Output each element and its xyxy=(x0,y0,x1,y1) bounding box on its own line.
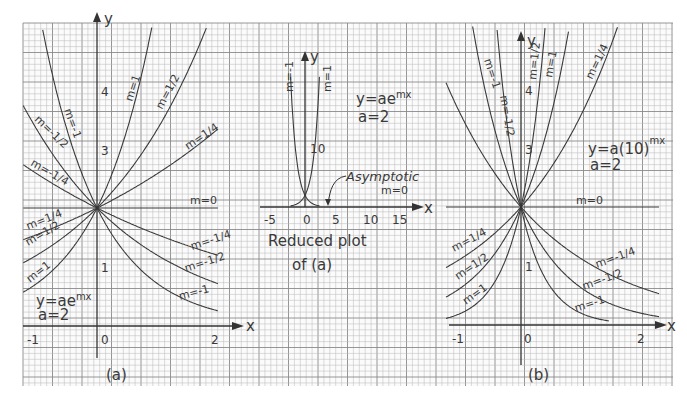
panel-b-label-m0: m=0 xyxy=(576,194,603,207)
panel-b-xtick-neg1: -1 xyxy=(452,332,464,346)
reduced-xtick-5: 5 xyxy=(332,213,340,227)
panel-a-ytick-4: 4 xyxy=(101,85,109,99)
reduced-xtick-10: 10 xyxy=(363,213,378,227)
reduced-x-label: x xyxy=(424,199,433,217)
panel-b-ytick-1: 1 xyxy=(525,260,533,274)
reduced-xtick-neg5: -5 xyxy=(264,213,276,227)
panel-b-xtick-0: 0 xyxy=(524,332,532,346)
reduced-caption-line2: of (a) xyxy=(292,256,332,274)
exponential-curves-figure: y x -1 0 2 1 3 4 m=0 y=aemx a=2 (a) m=1m… xyxy=(0,0,687,397)
reduced-xtick-15: 15 xyxy=(392,213,407,227)
reduced-param: a=2 xyxy=(358,108,389,126)
panel-a-y-label: y xyxy=(104,10,113,28)
panel-a-param: a=2 xyxy=(38,306,69,324)
panel-b-param: a=2 xyxy=(590,156,621,174)
panel-b-ytick-3: 3 xyxy=(525,143,533,157)
reduced-label-m-neg1: m=-1 xyxy=(283,61,296,92)
panel-b-xtick-2: 2 xyxy=(637,332,645,346)
panel-a-ytick-1: 1 xyxy=(101,261,109,275)
panel-b-caption: (b) xyxy=(528,366,549,384)
reduced-caption-line1: Reduced plot xyxy=(268,232,367,250)
panel-b-ytick-4: 4 xyxy=(525,84,533,98)
reduced-xtick-0: 0 xyxy=(303,213,311,227)
reduced-ytick-10: 10 xyxy=(310,142,325,156)
reduced-annotation-asymptotic: Asymptotic xyxy=(345,169,419,184)
panel-b-x-label: x xyxy=(667,317,676,335)
panel-a-xtick-0: 0 xyxy=(101,333,109,347)
panel-a-x-label: x xyxy=(246,317,255,335)
reduced-annotation-m0: m=0 xyxy=(381,184,408,197)
panel-a-xtick-2: 2 xyxy=(211,333,219,347)
reduced-y-label: y xyxy=(310,48,319,66)
panel-a-caption: (a) xyxy=(106,366,127,384)
panel-a-xtick-neg1: -1 xyxy=(27,333,39,347)
reduced-label-m1: m=1 xyxy=(321,65,334,92)
panel-a-ytick-3: 3 xyxy=(101,144,109,158)
panel-a-label-m0: m=0 xyxy=(190,194,217,207)
